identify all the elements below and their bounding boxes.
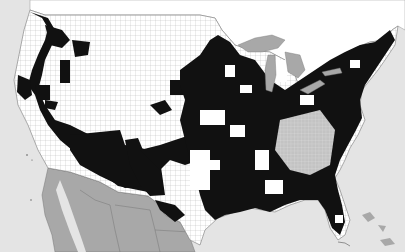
county-map <box>0 0 405 252</box>
map-container <box>0 0 405 252</box>
